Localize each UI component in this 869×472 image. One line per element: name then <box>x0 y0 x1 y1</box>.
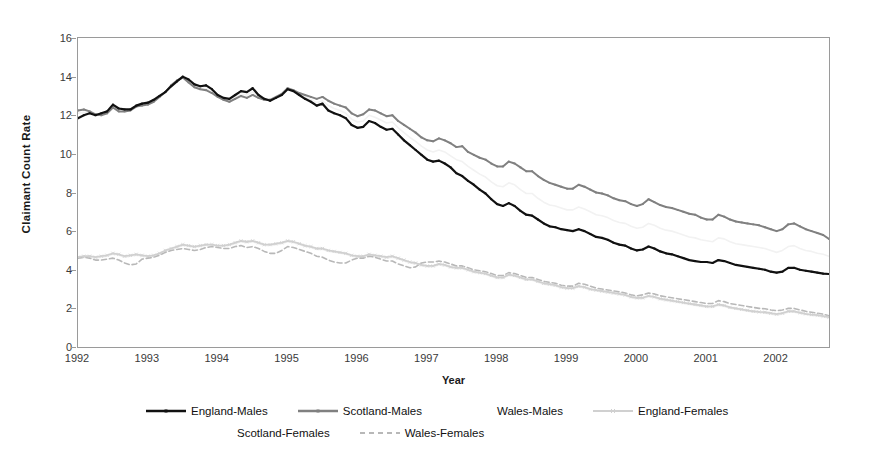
x-tick-label: 1994 <box>204 352 228 364</box>
x-tick-label: 1992 <box>65 352 89 364</box>
y-tick-mark <box>71 270 76 271</box>
legend-label: England-Females <box>638 405 728 417</box>
chart-figure: Claimant Count Rate 0246810121416 199219… <box>0 0 869 472</box>
legend-swatch-england-females <box>591 405 635 417</box>
legend-item-wales-females[interactable]: Wales-Females <box>358 427 484 439</box>
y-tick-label: 4 <box>46 264 72 276</box>
y-axis-title: Claimant Count Rate <box>14 0 38 348</box>
x-axis-ticks: 1992199319941995199619971998199920002001… <box>77 352 830 368</box>
x-tick-label: 1998 <box>484 352 508 364</box>
plot-area <box>77 37 830 348</box>
legend-label: Wales-Males <box>497 405 563 417</box>
y-axis-title-text: Claimant Count Rate <box>20 115 32 234</box>
legend-label: Scotland-Females <box>237 427 330 439</box>
legend-swatch-wales-females <box>358 427 402 439</box>
legend-swatch-scotland-females <box>190 427 234 439</box>
legend-item-scotland-females[interactable]: Scotland-Females <box>190 427 330 439</box>
legend-label: Scotland-Males <box>343 405 422 417</box>
legend-item-scotland-males[interactable]: Scotland-Males <box>296 405 422 417</box>
y-tick-mark <box>71 193 76 194</box>
y-axis-ticks: 0246810121416 <box>40 37 72 348</box>
y-tick-mark <box>71 38 76 39</box>
y-tick-label: 6 <box>46 225 72 237</box>
series-line-scotland-males <box>78 78 829 246</box>
y-tick-mark <box>71 77 76 78</box>
legend-row: Scotland-FemalesWales-Females <box>190 424 512 442</box>
series-markers-england-females <box>78 239 829 321</box>
x-tick-label: 1996 <box>344 352 368 364</box>
x-tick-label: 1995 <box>274 352 298 364</box>
x-tick-label: 2002 <box>763 352 787 364</box>
y-tick-label: 14 <box>46 71 72 83</box>
legend-row: England-MalesScotland-MalesWales-MalesEn… <box>144 402 756 420</box>
legend-item-england-males[interactable]: England-Males <box>144 405 268 417</box>
y-tick-label: 10 <box>46 148 72 160</box>
legend-label: Wales-Females <box>405 427 484 439</box>
series-line-wales-females <box>78 246 829 319</box>
y-tick-mark <box>71 231 76 232</box>
legend-item-wales-males[interactable]: Wales-Males <box>450 405 563 417</box>
series-line-scotland-females <box>78 242 829 321</box>
y-tick-mark <box>71 154 76 155</box>
series-markers-scotland-males <box>78 77 829 247</box>
x-tick-label: 1999 <box>554 352 578 364</box>
y-tick-mark <box>71 115 76 116</box>
y-tick-label: 12 <box>46 109 72 121</box>
x-tick-label: 1993 <box>135 352 159 364</box>
x-axis-title: Year <box>77 374 830 386</box>
series-line-england-females <box>78 241 829 320</box>
series-canvas <box>78 38 829 347</box>
legend-swatch-england-males <box>144 405 188 417</box>
chart-legend: England-MalesScotland-MalesWales-MalesEn… <box>120 402 820 452</box>
legend-swatch-wales-males <box>450 405 494 417</box>
y-tick-label: 2 <box>46 302 72 314</box>
y-tick-mark <box>71 308 76 309</box>
legend-label: England-Males <box>191 405 268 417</box>
x-tick-label: 2001 <box>693 352 717 364</box>
x-tick-label: 1997 <box>414 352 438 364</box>
legend-item-england-females[interactable]: England-Females <box>591 405 728 417</box>
y-tick-label: 8 <box>46 187 72 199</box>
legend-swatch-scotland-males <box>296 405 340 417</box>
y-tick-label: 16 <box>46 32 72 44</box>
y-tick-mark <box>71 347 76 348</box>
x-tick-label: 2000 <box>624 352 648 364</box>
